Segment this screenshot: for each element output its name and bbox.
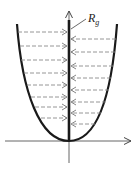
left-pressure-arrows bbox=[18, 32, 67, 118]
rg-label-subscript: g bbox=[95, 18, 99, 27]
parabola-curve bbox=[17, 24, 117, 141]
label-leader-line bbox=[71, 19, 86, 29]
rg-label: Rg bbox=[87, 11, 99, 27]
parabola-force-diagram: Rg bbox=[0, 0, 140, 172]
